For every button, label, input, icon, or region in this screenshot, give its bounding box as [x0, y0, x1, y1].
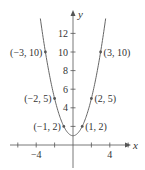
point-label: (1, 2) [85, 121, 107, 133]
x-axis-label: x [132, 139, 138, 151]
point-marker [90, 97, 93, 100]
y-tick-label: 8 [63, 65, 68, 76]
x-tick-label: −4 [31, 149, 42, 160]
y-tick-label: 4 [63, 102, 68, 113]
parabola-graph: x y −444681012 (−3, 10)(3, 10)(−2, 5)(2,… [0, 0, 145, 170]
y-tick-label: 12 [58, 28, 68, 39]
point-marker [81, 125, 84, 128]
y-tick-label: 10 [58, 47, 68, 58]
axes: x y [10, 8, 138, 168]
point-marker [44, 51, 47, 54]
point-marker [62, 125, 65, 128]
point-label: (2, 5) [94, 93, 116, 105]
point-marker [99, 51, 102, 54]
point-label: (−1, 2) [33, 121, 60, 133]
point-label: (−2, 5) [24, 93, 51, 105]
y-tick-label: 6 [63, 84, 68, 95]
point-marker [53, 97, 56, 100]
x-tick-label: 4 [107, 149, 112, 160]
point-label: (3, 10) [104, 47, 131, 59]
point-label: (−3, 10) [10, 47, 42, 59]
y-axis-arrow-icon [71, 10, 76, 16]
labeled-points: (−3, 10)(3, 10)(−2, 5)(2, 5)(−1, 2)(1, 2… [10, 47, 130, 133]
y-axis-label: y [77, 8, 83, 20]
